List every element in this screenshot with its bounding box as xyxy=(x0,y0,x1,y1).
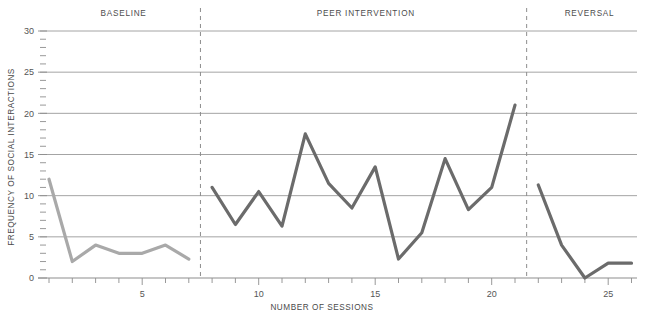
x-axis-title: NUMBER OF SESSIONS xyxy=(270,303,373,312)
y-tick-label-20: 20 xyxy=(24,109,34,119)
phase-label-2: PEER INTERVENTION xyxy=(317,9,415,18)
chart-background xyxy=(0,0,645,319)
y-tick-label-10: 10 xyxy=(24,191,34,201)
y-tick-label-30: 30 xyxy=(24,26,34,36)
phase-label-3: REVERSAL xyxy=(565,9,615,18)
x-tick-label-20: 20 xyxy=(487,289,497,299)
x-tick-label-25: 25 xyxy=(603,289,613,299)
y-axis-title: FREQUENCY OF SOCIAL INTERACTIONS xyxy=(7,68,16,246)
phase-label-1: BASELINE xyxy=(101,9,147,18)
y-tick-label-0: 0 xyxy=(29,273,34,283)
x-tick-label-15: 15 xyxy=(370,289,380,299)
y-tick-label-25: 25 xyxy=(24,67,34,77)
y-tick-label-15: 15 xyxy=(24,150,34,160)
x-tick-label-5: 5 xyxy=(140,289,145,299)
chart-container: 051015202530 510152025 BASELINEPEER INTE… xyxy=(0,0,645,319)
social-interactions-line-chart: 051015202530 510152025 BASELINEPEER INTE… xyxy=(0,0,645,319)
x-tick-label-10: 10 xyxy=(254,289,264,299)
y-tick-label-5: 5 xyxy=(29,232,34,242)
